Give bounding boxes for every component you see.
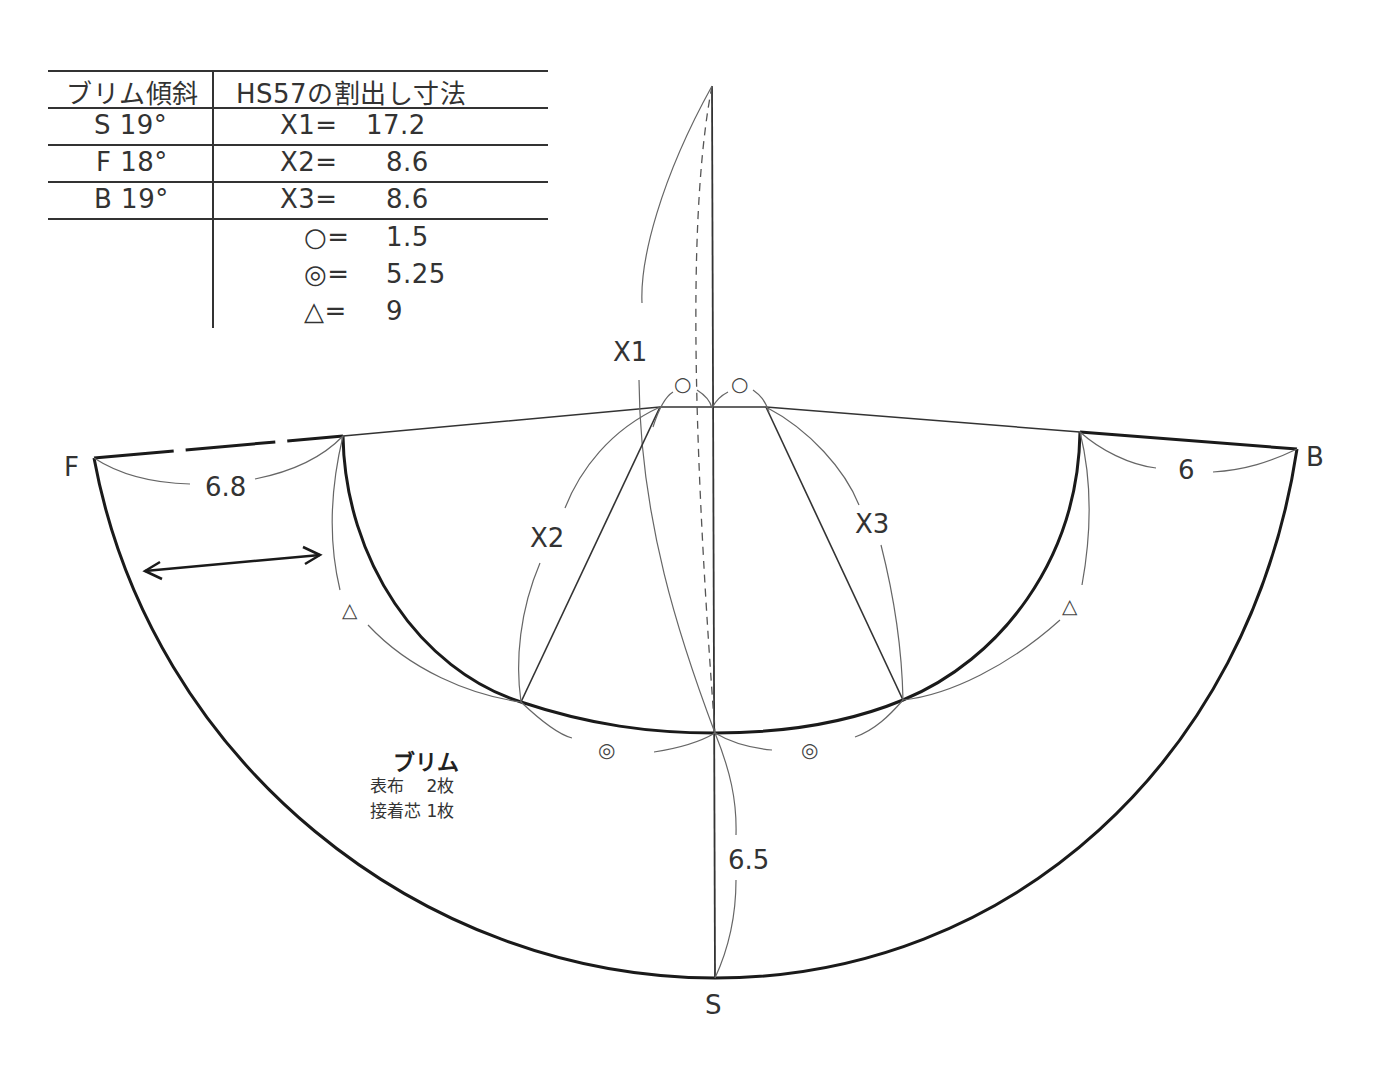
- dcircle-arc-right-a: [715, 733, 772, 750]
- x1-label: X1: [613, 337, 647, 367]
- dcircle-arc-left-a: [521, 702, 572, 738]
- x3-line: [766, 407, 903, 700]
- dim-label-double-circle: ◎=: [304, 259, 349, 289]
- grainline-arrow-icon: [145, 547, 320, 579]
- table-rule: [48, 181, 548, 183]
- side-width-arc-lower: [715, 880, 736, 978]
- dim-label-x3: X3=: [280, 184, 338, 214]
- x3-arc-upper: [766, 407, 859, 505]
- table-divider: [212, 70, 214, 328]
- dim-value-x3: 8.6: [386, 184, 429, 214]
- dcircle-arc-left-b: [654, 733, 715, 752]
- piece-line-interfacing: 接着芯 1枚: [370, 797, 454, 822]
- back-edge-line: [1080, 432, 1297, 449]
- table-rule: [48, 144, 548, 146]
- side-width-label: 6.5: [728, 845, 769, 875]
- point-b-label: B: [1306, 442, 1324, 472]
- back-width-arc-right: [1213, 449, 1297, 472]
- center-line: [712, 86, 715, 978]
- x2-arc-lower: [519, 563, 540, 702]
- triangle-mark-icon: △: [342, 598, 357, 622]
- piece-line-outer-fabric: 表布 2枚: [370, 772, 454, 797]
- dim-value-x2: 8.6: [386, 147, 429, 177]
- brim-outer-edge: [94, 449, 1297, 978]
- slope-b: B 19°: [94, 184, 169, 214]
- circle-mark-icon: ○: [674, 372, 691, 396]
- header-dimensions: HS57の割出し寸法: [236, 73, 466, 110]
- front-width-arc-left: [94, 458, 190, 484]
- double-circle-mark-icon: ◎: [801, 738, 818, 762]
- x1-arc: [642, 86, 712, 303]
- x2-arc-upper: [565, 407, 660, 508]
- side-width-arc-upper: [715, 733, 736, 835]
- header-brim-slope: ブリム傾斜: [66, 73, 199, 110]
- dim-label-circle: ○=: [304, 222, 349, 252]
- x1-arc-lower: [639, 380, 715, 733]
- front-width-label: 6.8: [205, 472, 246, 502]
- dim-value-x1: 17.2: [366, 110, 426, 140]
- dim-value-circle: 1.5: [386, 222, 429, 252]
- table-rule: [48, 70, 548, 72]
- slope-f: F 18°: [96, 147, 168, 177]
- dim-label-triangle: △=: [304, 296, 347, 326]
- x2-label: X2: [530, 523, 564, 553]
- dim-label-x1: X1=: [280, 110, 338, 140]
- brim-pattern-diagram: [0, 0, 1399, 1090]
- triangle-arc-right: [1080, 432, 1089, 585]
- back-width-label: 6: [1178, 455, 1195, 485]
- dim-value-double-circle: 5.25: [386, 259, 446, 289]
- dcircle-arc-right-b: [855, 700, 903, 737]
- baseline: [343, 407, 1080, 436]
- circle-arc-left2: [697, 390, 712, 408]
- circle-arc-right: [712, 392, 728, 408]
- dim-label-x2: X2=: [280, 147, 338, 177]
- x3-label: X3: [855, 509, 889, 539]
- point-s-label: S: [705, 990, 722, 1020]
- table-rule: [48, 218, 548, 220]
- triangle-mark-icon: △: [1062, 594, 1077, 618]
- dim-value-triangle: 9: [386, 296, 403, 326]
- point-f-label: F: [64, 452, 79, 482]
- triangle-arc-left: [332, 436, 343, 590]
- x2-line: [521, 407, 660, 702]
- circle-mark-icon: ○: [731, 372, 748, 396]
- front-edge-line: [94, 436, 343, 458]
- double-circle-mark-icon: ◎: [598, 738, 615, 762]
- triangle-arc-left-b: [368, 625, 521, 702]
- slope-s: S 19°: [94, 110, 167, 140]
